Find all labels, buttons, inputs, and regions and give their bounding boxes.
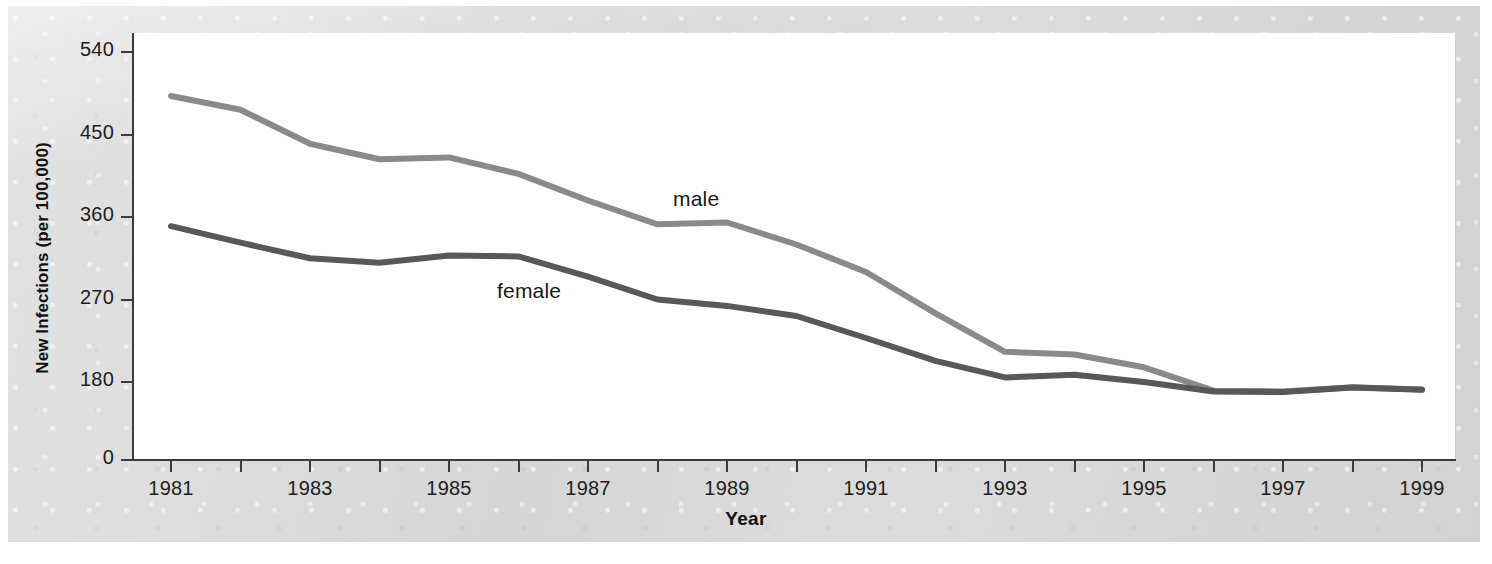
data-lines <box>0 0 1492 564</box>
series-line-female <box>171 226 1422 392</box>
series-label-male: male <box>673 187 719 211</box>
series-line-male <box>171 96 1422 392</box>
chart-figure: 5404503602701800 19811983198519871989199… <box>0 0 1492 564</box>
series-label-female: female <box>497 279 561 303</box>
